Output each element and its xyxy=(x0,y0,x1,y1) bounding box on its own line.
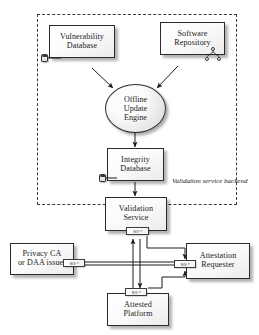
vulnerability-database-line2: Database xyxy=(67,42,97,51)
diagram-canvas: Validation service backend xyxy=(0,0,259,335)
attestation-requester-ws-tag: WS-* xyxy=(174,260,196,268)
attested-platform-line2: Platform xyxy=(123,310,152,319)
integrity-database-line2: Database xyxy=(120,165,150,174)
node-offline-update-engine[interactable]: Offline Update Engine xyxy=(105,84,166,133)
boundary-label-line2: service backend xyxy=(203,177,248,185)
offline-update-engine-line3: Engine xyxy=(124,113,147,122)
validation-service-line2: Service xyxy=(124,214,149,223)
validation-service-ws-tag: WS-* xyxy=(126,227,149,235)
attestation-requester-line2: Requester xyxy=(201,261,234,270)
offline-update-engine-line2: Update xyxy=(124,104,147,113)
node-validation-service[interactable]: Validation Service xyxy=(105,197,167,231)
vulnerability-db-interface-icon xyxy=(41,54,61,63)
offline-update-engine-line1: Offline xyxy=(124,95,147,104)
integrity-db-interface-icon xyxy=(99,174,117,183)
boundary-label: Validation service backend xyxy=(172,177,234,185)
attested-platform-ws-tag: WS-* xyxy=(125,288,147,296)
privacy-ca-line2: or DAA issuer xyxy=(18,259,66,268)
boundary-label-line1: Validation xyxy=(172,177,201,185)
privacy-ca-ws-tag: WS-* xyxy=(63,259,85,267)
edge-validation-to-requester xyxy=(147,236,185,259)
node-attested-platform[interactable]: Attested Platform xyxy=(107,293,169,326)
edge-platform-to-requester xyxy=(148,271,185,288)
